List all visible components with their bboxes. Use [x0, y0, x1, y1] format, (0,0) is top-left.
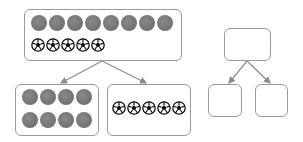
gray-ball-icon [49, 15, 65, 31]
soccer-ball-icon [172, 101, 186, 115]
gray-ball-icon [103, 15, 119, 31]
arrow-right-diagram-to-left-part [229, 61, 247, 83]
soccer-ball-icon [112, 101, 126, 115]
gray-ball-icon [67, 15, 83, 31]
gray-ball-icon [139, 15, 155, 31]
arrow-right-diagram-to-right-part [247, 61, 270, 83]
part-box-empty-right [255, 84, 288, 117]
soccer-ball-icon [61, 38, 75, 52]
part-box-empty-left [208, 84, 242, 117]
soccer-ball-icon [31, 38, 45, 52]
soccer-ball-icon [142, 101, 156, 115]
gray-ball-icon [40, 89, 56, 105]
whole-box-empty [224, 28, 271, 61]
whole-box-filled [24, 9, 182, 61]
gray-ball-icon [22, 112, 38, 128]
gray-ball-icon [31, 15, 47, 31]
soccer-ball-icon [76, 38, 90, 52]
part-box-soccer-balls [107, 84, 191, 136]
gray-ball-icon [76, 89, 92, 105]
soccer-ball-icon [91, 38, 105, 52]
arrow-left-diagram-to-left-part [61, 61, 102, 83]
gray-ball-icon [22, 89, 38, 105]
soccer-ball-icon [46, 38, 60, 52]
soccer-ball-icon [127, 101, 141, 115]
arrow-left-diagram-to-right-part [102, 61, 146, 83]
gray-ball-icon [157, 15, 173, 31]
gray-ball-icon [40, 112, 56, 128]
part-box-gray-balls [15, 84, 99, 136]
gray-ball-icon [58, 112, 74, 128]
soccer-ball-icon [157, 101, 171, 115]
gray-ball-icon [76, 112, 92, 128]
gray-ball-icon [121, 15, 137, 31]
gray-ball-icon [58, 89, 74, 105]
gray-ball-icon [85, 15, 101, 31]
